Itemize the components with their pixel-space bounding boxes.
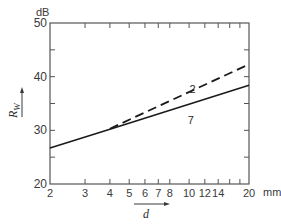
x-unit-label: mm <box>263 186 281 198</box>
x-tick-label: 10 <box>183 187 195 199</box>
y-axis-title: RW <box>6 102 22 119</box>
x-tick-label: 20 <box>243 187 255 199</box>
x-tick-label: 12 <box>199 187 211 199</box>
series-line-2 <box>110 64 249 128</box>
series-label-7: 7 <box>188 114 194 126</box>
series-label-2: 2 <box>189 83 195 95</box>
x-axis-title: d <box>143 207 150 221</box>
x-axis-arrow <box>134 202 170 206</box>
y-tick-label: 50 <box>34 16 48 30</box>
x-tick-label: 5 <box>126 187 132 199</box>
x-tick-label: 2 <box>47 187 53 199</box>
y-tick-label: 30 <box>34 123 48 137</box>
y-unit-label: dB <box>36 6 49 18</box>
series-line-7 <box>50 85 249 148</box>
axes <box>50 23 249 184</box>
plot-frame <box>50 23 249 184</box>
y-axis-title-text: RW <box>6 102 22 119</box>
x-tick-label: 8 <box>167 187 173 199</box>
y-axis-title-sub: W <box>12 102 22 111</box>
series: 72 <box>50 64 249 148</box>
chart: 23456781012142020304050 72 dB mm RW d <box>0 0 281 224</box>
x-tick-label: 7 <box>155 187 161 199</box>
y-tick-label: 40 <box>34 70 48 84</box>
x-tick-label: 4 <box>107 187 113 199</box>
x-tick-label: 6 <box>142 187 148 199</box>
x-tick-label: 3 <box>82 187 88 199</box>
y-axis-arrow <box>20 87 24 117</box>
tick-labels: 23456781012142020304050 <box>34 16 255 199</box>
y-tick-label: 20 <box>34 177 48 191</box>
x-tick-label: 14 <box>212 187 224 199</box>
ticks <box>50 23 249 184</box>
